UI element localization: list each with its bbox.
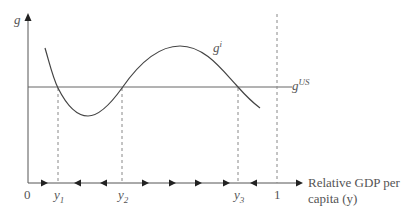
- gi-curve: [45, 46, 260, 116]
- y3-label-sub: 3: [240, 195, 245, 205]
- y3-label: y3: [234, 188, 244, 205]
- unity-label: 1: [274, 188, 281, 201]
- arrow-left-icon: [100, 180, 107, 187]
- arrow-left-icon: [74, 180, 81, 187]
- arrow-right-icon: [223, 180, 230, 187]
- x-axis-label-line1: Relative GDP per: [308, 176, 400, 189]
- y1-label-sub: 1: [60, 195, 65, 205]
- arrow-right-icon: [195, 180, 202, 187]
- arrow-right-icon: [296, 180, 303, 187]
- curve-label: gi: [213, 40, 222, 54]
- x-axis-label-line2: capita (y): [308, 192, 357, 205]
- origin-label: 0: [24, 188, 31, 201]
- y-axis-label: g: [14, 13, 21, 26]
- y2-label: y2: [118, 188, 128, 205]
- gus-label-sup: US: [299, 77, 310, 87]
- curve-label-sup: i: [220, 39, 223, 49]
- arrow-left-icon: [250, 180, 257, 187]
- arrow-right-icon: [142, 180, 149, 187]
- gus-label: gUS: [292, 78, 310, 92]
- y-axis-arrow-icon: [25, 13, 32, 21]
- arrow-right-icon: [169, 180, 176, 187]
- arrow-right-icon: [41, 180, 48, 187]
- y2-label-sub: 2: [124, 195, 129, 205]
- y1-label: y1: [54, 188, 64, 205]
